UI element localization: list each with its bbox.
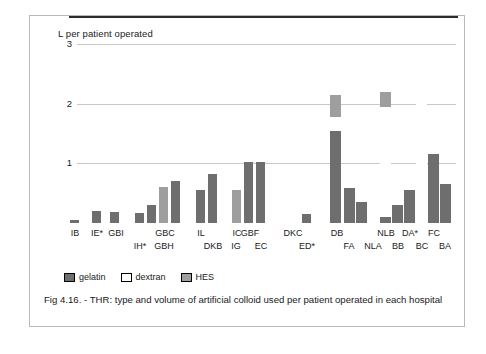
bar-DB [330, 95, 341, 223]
bar-BB [392, 205, 403, 223]
legend-item-gelatin: gelatin [64, 272, 106, 282]
bar-IH* [135, 213, 144, 223]
x-tick-label-GBC: GBC [155, 228, 175, 238]
legend-label: dextran [136, 272, 166, 282]
bar-BC [416, 71, 427, 223]
bar-segment-gelatin [344, 188, 355, 223]
bar-FC [428, 154, 439, 223]
bar-segment-gelatin [135, 213, 144, 223]
bar-GBH [147, 190, 156, 223]
bar-DA* [404, 190, 415, 223]
bar-DKC [288, 175, 297, 223]
bar-segment-HES [330, 95, 341, 118]
bar-segment-HES [380, 92, 391, 107]
x-tick-label-IE*: IE* [91, 228, 103, 238]
bar-DKB [208, 174, 217, 223]
bar-segment-gelatin [196, 190, 205, 223]
bar-segment-gelatin [110, 212, 119, 223]
bar-GBF [244, 162, 253, 223]
x-tick-label-IG: IG [231, 241, 241, 251]
bar-FA [344, 188, 355, 223]
bar-segment-dextran [416, 71, 427, 223]
bar-NLB [380, 92, 391, 223]
legend-swatch-dextran [121, 273, 132, 282]
bar-ED* [302, 214, 311, 223]
bar-segment-gelatin [208, 174, 217, 223]
bars-layer [30, 16, 466, 264]
bar-segment-dextran [110, 205, 119, 212]
bar-segment-gelatin [404, 190, 415, 223]
figure-caption: Fig 4.16. - THR: type and volume of arti… [44, 293, 452, 307]
bar-segment-gelatin [392, 205, 403, 223]
x-tick-label-BC: BC [416, 241, 429, 251]
x-tick-label-IL: IL [197, 228, 205, 238]
x-tick-label-GBI: GBI [108, 228, 124, 238]
x-tick-label-DKC: DKC [283, 228, 302, 238]
x-tick-label-IH*: IH* [134, 241, 147, 251]
bar-segment-dextran [220, 192, 229, 223]
bar-segment-gelatin [380, 217, 391, 223]
bar-segment-HES [232, 190, 241, 223]
figure-frame: L per patient operated 123 IBIE*GBIGBCIL… [29, 15, 465, 327]
x-tick-label-GBH: GBH [154, 241, 174, 251]
bar-segment-gelatin [428, 154, 439, 223]
bar-segment-dextran [147, 190, 156, 206]
chart-legend: gelatindextranHES [64, 269, 222, 285]
bar-segment-dextran [288, 175, 297, 223]
chart-plot-area: L per patient operated 123 IBIE*GBIGBCIL… [30, 16, 466, 264]
bar-BA [440, 184, 451, 223]
bar-IE* [92, 211, 101, 223]
bar-GBC [159, 187, 168, 223]
x-tick-label-BB: BB [392, 241, 404, 251]
legend-item-dextran: dextran [121, 272, 166, 282]
bar-NLA [356, 172, 367, 223]
bar-segment-dextran [356, 172, 367, 202]
x-tick-label-BA: BA [439, 241, 451, 251]
bar-GBCb [171, 181, 180, 223]
x-tick-label-FC: FC [428, 228, 440, 238]
bar-IB [70, 220, 79, 223]
bar-segment-dextran [380, 107, 391, 217]
legend-label: HES [196, 272, 215, 282]
bar-IL [196, 190, 205, 223]
bar-segment-HES [159, 187, 168, 223]
legend-swatch-HES [181, 273, 192, 282]
x-tick-label-DB: DB [331, 228, 344, 238]
bar-segment-gelatin [256, 162, 265, 223]
legend-swatch-gelatin [64, 273, 75, 282]
bar-segment-gelatin [330, 131, 341, 223]
x-tick-label-IB: IB [71, 228, 80, 238]
x-tick-label-ED*: ED* [299, 241, 315, 251]
legend-label: gelatin [79, 272, 106, 282]
bar-segment-gelatin [171, 181, 180, 223]
x-tick-label-EC: EC [255, 241, 268, 251]
bar-segment-gelatin [302, 214, 311, 223]
bar-segment-dextran [330, 117, 341, 130]
x-axis-line [69, 16, 458, 18]
x-tick-label-GBF: GBF [241, 228, 260, 238]
bar-segment-gelatin [440, 184, 451, 223]
bar-IG [220, 192, 229, 223]
bar-EC [256, 162, 265, 223]
legend-item-HES: HES [181, 272, 215, 282]
bar-segment-gelatin [70, 220, 79, 223]
x-tick-label-DA*: DA* [402, 228, 418, 238]
bar-segment-gelatin [147, 205, 156, 223]
x-tick-label-NLA: NLA [364, 241, 382, 251]
x-tick-label-FA: FA [343, 241, 354, 251]
bar-GBI [110, 205, 119, 223]
x-tick-label-NLB: NLB [377, 228, 395, 238]
bar-segment-gelatin [356, 202, 367, 223]
x-tick-label-DKB: DKB [204, 241, 223, 251]
bar-segment-gelatin [92, 211, 101, 223]
bar-IC [232, 190, 241, 223]
bar-segment-gelatin [244, 162, 253, 223]
